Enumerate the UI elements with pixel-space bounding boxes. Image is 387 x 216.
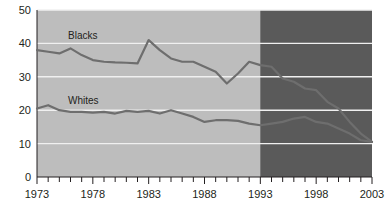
x-axis-tick-label: 1983 — [136, 188, 160, 200]
x-axis-tick-label: 1988 — [192, 188, 216, 200]
chart-container: 010203040501973197819831988199319982003B… — [0, 0, 387, 216]
y-axis-tick-label: 0 — [25, 171, 31, 183]
x-axis-tick-label: 1993 — [248, 188, 272, 200]
x-axis-tick-label: 1978 — [81, 188, 105, 200]
y-axis-tick-label: 30 — [19, 71, 31, 83]
y-axis-labels: 01020304050 — [19, 4, 31, 183]
y-axis-tick-label: 20 — [19, 104, 31, 116]
y-axis-tick-label: 10 — [19, 138, 31, 150]
x-axis-tick-label: 2003 — [360, 188, 384, 200]
x-axis-tick-label: 1973 — [25, 188, 49, 200]
line-chart: 010203040501973197819831988199319982003B… — [0, 0, 387, 216]
y-axis-tick-label: 40 — [19, 37, 31, 49]
series-label-whites: Whites — [68, 95, 99, 106]
series-label-blacks: Blacks — [68, 30, 97, 41]
x-axis-tick-label: 1998 — [304, 188, 328, 200]
shaded-region — [260, 10, 372, 177]
y-axis-tick-label: 50 — [19, 4, 31, 16]
